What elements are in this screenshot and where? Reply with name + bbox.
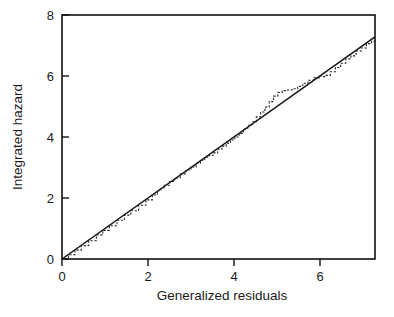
x-tick-label-2: 2 xyxy=(144,269,151,284)
y-tick-label-4: 4 xyxy=(47,130,54,145)
y-tick-label-6: 6 xyxy=(47,69,54,84)
x-axis-title: Generalized residuals xyxy=(157,288,288,303)
x-tick-label-0: 0 xyxy=(58,269,65,284)
empirical-hazard-curve xyxy=(62,41,375,259)
y-tick-label-8: 8 xyxy=(47,8,54,23)
figure-container: 0 2 4 6 8 0 2 4 6 Generalized residuals … xyxy=(0,0,394,317)
y-axis-ticks xyxy=(62,15,69,259)
plot-frame xyxy=(62,15,375,259)
y-axis-title: Integrated hazard xyxy=(10,84,25,190)
y-tick-label-2: 2 xyxy=(47,191,54,206)
x-tick-label-6: 6 xyxy=(316,269,323,284)
x-axis-ticks xyxy=(62,259,320,266)
chart-canvas: 0 2 4 6 8 0 2 4 6 Generalized residuals … xyxy=(0,0,394,317)
reference-line xyxy=(62,37,375,259)
x-tick-label-4: 4 xyxy=(230,269,237,284)
y-tick-label-0: 0 xyxy=(47,252,54,267)
